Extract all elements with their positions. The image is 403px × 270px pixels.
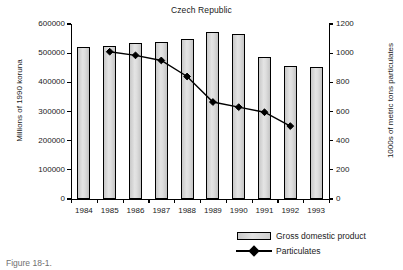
right-tick-label: 400 xyxy=(336,137,376,145)
data-point-marker xyxy=(261,109,268,116)
left-axis-title: Millions of 1990 koruna xyxy=(15,26,24,176)
right-tick-label: 800 xyxy=(336,78,376,86)
right-tick xyxy=(329,169,333,170)
left-tick-label: 100000 xyxy=(5,166,65,174)
figure-container: Czech Republic Millions of 1990 koruna 1… xyxy=(0,0,403,270)
left-tick-label: 0 xyxy=(5,195,65,203)
left-tick-label: 200000 xyxy=(5,137,65,145)
x-tick xyxy=(200,199,201,203)
x-axis-label: 1987 xyxy=(148,206,174,215)
x-tick xyxy=(277,199,278,203)
right-tick-label: 1200 xyxy=(336,20,376,28)
left-tick-label: 600000 xyxy=(5,20,65,28)
right-tick xyxy=(329,82,333,83)
right-tick xyxy=(329,23,333,24)
left-tick-label: 500000 xyxy=(5,49,65,57)
left-tick-label: 400000 xyxy=(5,78,65,86)
legend-item-gross-domestic-product: Gross domestic product xyxy=(232,228,402,243)
right-axis-title: 1000s of metric tons particulates xyxy=(386,16,395,186)
x-axis-label: 1988 xyxy=(174,206,200,215)
figure-caption: Figure 18-1. xyxy=(6,258,52,270)
x-axis-label: 1992 xyxy=(277,206,303,215)
x-axis-label: 1985 xyxy=(97,206,123,215)
x-axis-label: 1989 xyxy=(200,206,226,215)
x-axis-label: 1990 xyxy=(226,206,252,215)
right-tick-label: 200 xyxy=(336,166,376,174)
data-point-marker xyxy=(287,123,294,130)
x-tick xyxy=(252,199,253,203)
x-tick xyxy=(97,199,98,203)
right-tick xyxy=(329,53,333,54)
legend-label-particulates: Particulates xyxy=(276,246,320,256)
right-tick-label: 1000 xyxy=(336,49,376,57)
x-tick xyxy=(303,199,304,203)
data-point-marker xyxy=(235,104,242,111)
line-series-particulates xyxy=(71,24,329,199)
x-tick xyxy=(174,199,175,203)
right-tick xyxy=(329,111,333,112)
legend-label-gross-domestic-product: Gross domestic product xyxy=(276,231,366,241)
x-tick xyxy=(71,199,72,203)
x-axis-label: 1991 xyxy=(252,206,278,215)
right-tick-label: 600 xyxy=(336,108,376,116)
x-axis-label: 1986 xyxy=(123,206,149,215)
data-point-marker xyxy=(158,57,165,64)
right-tick xyxy=(329,140,333,141)
right-tick-label: 0 xyxy=(336,195,376,203)
x-tick xyxy=(329,199,330,203)
legend-item-particulates: Particulates xyxy=(232,243,402,258)
x-tick xyxy=(123,199,124,203)
x-tick xyxy=(148,199,149,203)
x-axis-label: 1993 xyxy=(303,206,329,215)
left-tick-label: 300000 xyxy=(5,108,65,116)
data-point-marker xyxy=(132,52,139,59)
chart-legend: Gross domestic product Particulates xyxy=(232,228,402,258)
line-diamond-icon xyxy=(232,243,276,258)
data-point-marker xyxy=(106,48,113,55)
bar-swatch-icon xyxy=(232,228,276,243)
chart-title: Czech Republic xyxy=(0,5,403,15)
x-tick xyxy=(226,199,227,203)
plot-area: 0100000200000300000400000500000600000 02… xyxy=(71,24,329,199)
x-axis-label: 1984 xyxy=(71,206,97,215)
